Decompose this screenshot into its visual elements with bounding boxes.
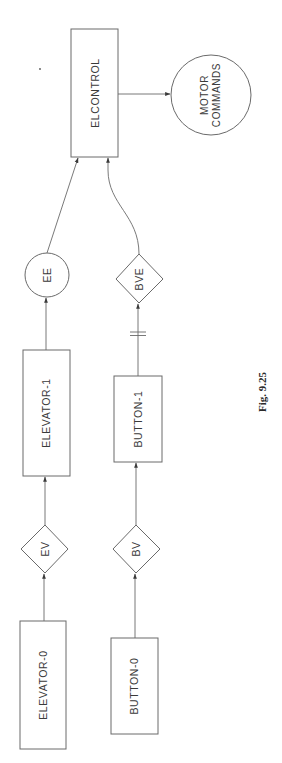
node-button-0: BUTTON-0	[111, 638, 158, 734]
node-ee: EE	[25, 253, 69, 297]
node-ev: EV	[21, 525, 68, 573]
diagram-canvas: ELCONTROL MOTOR COMMANDS EE BVE ELEVATOR…	[0, 0, 282, 763]
node-motor-commands: MOTOR COMMANDS	[171, 55, 251, 135]
elevator-0-label: ELEVATOR-0	[37, 650, 49, 720]
node-elevator-1: ELEVATOR-1	[23, 350, 70, 476]
speck-mark	[39, 68, 41, 70]
node-bv: BV	[113, 525, 160, 573]
node-button-1: BUTTON-1	[114, 376, 162, 462]
bve-label: BVE	[133, 268, 145, 291]
node-bve: BVE	[116, 254, 163, 303]
bv-label: BV	[130, 541, 142, 556]
button-1-label: BUTTON-1	[132, 390, 144, 447]
node-elevator-0: ELEVATOR-0	[20, 621, 66, 749]
motor-commands-label-line1: MOTOR	[199, 75, 210, 115]
ee-label: EE	[41, 267, 53, 282]
node-elcontrol: ELCONTROL	[71, 29, 118, 157]
edge-ee-to-elcontrol	[47, 158, 78, 253]
elcontrol-label: ELCONTROL	[89, 58, 101, 128]
elevator-1-label: ELEVATOR-1	[40, 378, 52, 448]
edge-bve-to-elcontrol	[108, 158, 139, 254]
motor-commands-label-line2: COMMANDS	[211, 63, 222, 127]
ev-label: EV	[39, 541, 51, 556]
button-0-label: BUTTON-0	[128, 657, 140, 714]
figure-caption: Fig. 9.25	[256, 371, 268, 412]
